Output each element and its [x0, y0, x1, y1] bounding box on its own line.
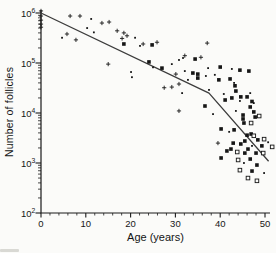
- data-point: [223, 93, 225, 95]
- y-axis-title: Number of follicles: [3, 67, 15, 157]
- data-point: [171, 63, 173, 65]
- data-point: [260, 144, 264, 148]
- data-point: [239, 142, 243, 146]
- data-point: [155, 40, 159, 44]
- data-point: [125, 34, 129, 38]
- data-point: [267, 141, 269, 143]
- data-point: [243, 151, 247, 155]
- y-tick-label: 105: [21, 57, 36, 69]
- x-tick-label: 30: [170, 218, 181, 229]
- data-point: [74, 38, 78, 42]
- data-point: [203, 104, 207, 108]
- data-point: [233, 84, 237, 88]
- data-point: [170, 85, 174, 89]
- data-point: [181, 92, 183, 94]
- data-point: [219, 127, 223, 131]
- data-point: [228, 77, 232, 81]
- data-point: [261, 151, 265, 155]
- data-point: [254, 151, 258, 155]
- data-point: [78, 14, 82, 18]
- data-point: [107, 20, 111, 24]
- data-point: [245, 133, 249, 137]
- data-point: [251, 145, 253, 147]
- data-point: [150, 43, 154, 47]
- y-tick-label: 103: [21, 157, 36, 169]
- data-point: [147, 60, 151, 64]
- data-point: [243, 162, 245, 164]
- data-point: [130, 71, 132, 73]
- x-axis-title: Age (years): [41, 231, 270, 243]
- data-point: [238, 68, 242, 72]
- data-point: [241, 113, 245, 117]
- data-point: [182, 57, 184, 59]
- data-point: [246, 147, 250, 151]
- data-point: [193, 57, 197, 61]
- data-point: [238, 168, 242, 172]
- data-point: [253, 115, 257, 119]
- data-point: [255, 179, 259, 183]
- data-point: [249, 121, 253, 125]
- data-point: [219, 156, 223, 160]
- data-point: [115, 29, 119, 33]
- data-point: [231, 141, 235, 145]
- data-point: [120, 36, 124, 40]
- scatter-plot: 10210310410510601020304050: [0, 0, 276, 253]
- data-point: [208, 89, 210, 91]
- data-point: [160, 66, 164, 70]
- data-point: [256, 138, 260, 142]
- data-point: [231, 68, 233, 70]
- data-point: [250, 100, 254, 104]
- data-point: [177, 109, 181, 113]
- data-point: [174, 72, 178, 76]
- y-tick-label: 102: [21, 207, 36, 219]
- caption-remnant: [0, 249, 19, 252]
- data-point: [187, 79, 189, 81]
- data-point: [217, 78, 221, 82]
- data-point: [243, 139, 247, 143]
- data-point: [262, 137, 266, 141]
- y-tick-label: 106: [21, 7, 36, 19]
- data-point: [232, 128, 236, 132]
- data-point: [214, 74, 216, 76]
- data-point: [93, 31, 95, 33]
- y-tick-label: 104: [21, 107, 36, 119]
- data-point: [100, 21, 104, 25]
- data-point: [139, 45, 141, 47]
- data-point: [216, 141, 220, 145]
- data-point: [205, 75, 207, 77]
- data-point: [61, 37, 63, 39]
- data-point: [230, 96, 234, 100]
- data-point: [234, 89, 238, 93]
- x-tick-label: 20: [125, 218, 136, 229]
- data-point: [122, 42, 126, 46]
- data-point: [249, 92, 251, 94]
- data-point: [134, 37, 136, 39]
- data-point: [152, 66, 154, 68]
- data-point: [122, 31, 126, 35]
- data-point: [270, 145, 274, 149]
- data-point: [241, 117, 245, 121]
- data-point: [239, 95, 243, 99]
- data-point: [248, 105, 252, 109]
- data-point: [86, 27, 88, 29]
- data-point: [199, 55, 203, 59]
- x-tick-label: 0: [38, 218, 43, 229]
- data-point: [39, 18, 43, 22]
- data-point: [212, 113, 214, 115]
- data-point: [233, 82, 235, 84]
- data-point: [65, 32, 69, 36]
- data-point: [239, 100, 241, 102]
- data-point: [106, 62, 110, 66]
- follicle-decline-figure: 10210310410510601020304050 Number of fol…: [0, 0, 276, 253]
- data-point: [250, 169, 254, 173]
- data-point: [191, 71, 195, 75]
- data-point: [141, 42, 145, 46]
- data-point: [223, 98, 227, 102]
- data-point: [236, 158, 240, 162]
- data-point: [252, 110, 256, 114]
- data-point: [90, 18, 92, 20]
- data-point: [228, 131, 230, 133]
- data-point: [205, 41, 209, 45]
- data-point: [207, 67, 209, 69]
- data-point: [255, 163, 259, 167]
